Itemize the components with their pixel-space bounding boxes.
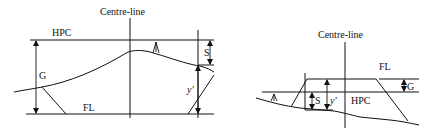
hpc-label: HPC: [52, 27, 72, 38]
side-slope-right: [376, 79, 408, 121]
y-prime-label: y': [329, 95, 337, 106]
g-label: G: [407, 81, 414, 92]
cutting-section-diagram: Centre-line HPC FL G S y': [14, 6, 214, 118]
g-label: G: [39, 70, 46, 81]
cross-section-diagrams: Centre-line HPC FL G S y': [0, 0, 429, 140]
ground-surface: [256, 98, 419, 125]
s-label: S: [315, 95, 321, 106]
hpc-label: HPC: [351, 95, 371, 106]
level-instrument-icon: [271, 94, 277, 101]
fl-label: FL: [379, 61, 391, 72]
fl-label: FL: [83, 102, 95, 113]
s-label: S: [204, 47, 210, 58]
side-slope-left: [42, 87, 66, 114]
y-prime-label: y': [186, 84, 194, 95]
embankment-section-diagram: Centre-line FL HPC S y' G: [256, 29, 419, 128]
centre-line-label: Centre-line: [318, 29, 364, 40]
level-instrument-icon: [153, 42, 159, 53]
centre-line-label: Centre-line: [100, 6, 146, 17]
